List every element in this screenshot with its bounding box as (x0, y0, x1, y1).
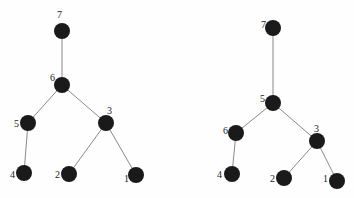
node-6 (54, 77, 70, 93)
node-5 (20, 115, 36, 131)
node-3 (309, 133, 325, 149)
tree-diagram-canvas: 76534217563421 (0, 0, 354, 198)
node-label-5: 5 (260, 93, 265, 104)
node-2 (276, 170, 292, 186)
node-label-1: 1 (124, 173, 129, 184)
node-label-4: 4 (217, 169, 222, 180)
node-3 (98, 115, 114, 131)
node-label-7: 7 (57, 9, 62, 20)
node-5 (265, 95, 281, 111)
node-2 (61, 166, 77, 182)
node-label-2: 2 (270, 173, 275, 184)
tree-diagram: 76534217563421 (0, 0, 354, 198)
node-label-5: 5 (14, 118, 19, 129)
left-tree: 7653421 (10, 9, 144, 184)
edge-6-3 (62, 85, 106, 123)
node-label-6: 6 (50, 72, 55, 83)
node-1 (128, 167, 144, 183)
node-7 (54, 23, 70, 39)
edge-3-2 (69, 123, 106, 174)
node-7 (265, 20, 281, 36)
node-label-3: 3 (107, 105, 112, 116)
right-tree: 7563421 (217, 19, 345, 189)
node-4 (16, 165, 32, 181)
node-label-3: 3 (314, 123, 319, 134)
edge-5-3 (273, 103, 317, 141)
node-4 (224, 166, 240, 182)
node-label-2: 2 (55, 169, 60, 180)
edge-3-1 (106, 123, 136, 175)
node-label-4: 4 (10, 169, 15, 180)
node-1 (329, 173, 345, 189)
node-label-1: 1 (323, 173, 328, 184)
node-6 (228, 125, 244, 141)
node-label-7: 7 (261, 19, 266, 30)
node-label-6: 6 (223, 125, 228, 136)
